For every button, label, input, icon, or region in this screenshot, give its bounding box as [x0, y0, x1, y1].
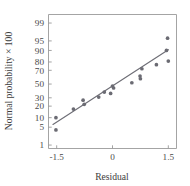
data-point — [54, 116, 58, 120]
data-point-group — [54, 36, 170, 132]
y-tick-label: 30 — [35, 93, 45, 103]
plot-canvas: 15102030507080909599 -1.501.5 Residual N… — [0, 0, 190, 186]
data-point — [166, 59, 170, 63]
data-point — [165, 49, 169, 53]
data-point — [130, 81, 134, 85]
y-tick-label: 80 — [35, 57, 45, 67]
x-axis-title: Residual — [95, 171, 129, 182]
data-point — [97, 95, 101, 99]
reference-line-path — [53, 50, 168, 125]
data-point — [102, 90, 106, 94]
y-tick-label: 5 — [39, 122, 44, 132]
reference-line — [53, 50, 168, 125]
x-tick-label: 0 — [110, 152, 115, 162]
x-tick-label: 1.5 — [163, 152, 175, 162]
y-tick-label: 10 — [35, 113, 45, 123]
y-axis-tick-group: 15102030507080909599 — [35, 18, 52, 150]
y-tick-label: 99 — [35, 18, 45, 28]
y-axis-title: Normal probability × 100 — [3, 32, 14, 131]
y-tick-label: 90 — [35, 46, 45, 56]
data-point — [72, 107, 76, 111]
y-tick-label: 50 — [35, 79, 45, 89]
data-point — [140, 67, 144, 71]
x-axis-tick-group: -1.501.5 — [49, 145, 174, 162]
data-point — [112, 86, 116, 90]
data-point — [82, 102, 86, 106]
plot-frame — [49, 15, 177, 149]
normal-probability-plot-figure: 15102030507080909599 -1.501.5 Residual N… — [0, 0, 190, 186]
data-point — [139, 77, 143, 81]
y-tick-label: 1 — [39, 140, 44, 150]
data-point — [54, 128, 58, 132]
x-tick-label: -1.5 — [49, 152, 64, 162]
data-point — [81, 98, 85, 102]
y-tick-label: 95 — [35, 36, 45, 46]
data-point — [109, 92, 113, 96]
data-point — [166, 36, 170, 40]
data-point — [155, 63, 159, 67]
